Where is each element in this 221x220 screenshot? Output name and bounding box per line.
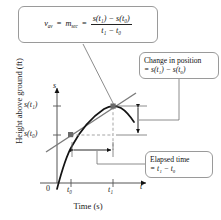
point-t1-marker (111, 104, 116, 109)
formula-numerator: s(t₁) − s(t₀) (91, 14, 132, 25)
elapsed-time-line-2: = t₁ − t₀ (150, 164, 208, 173)
formula-equals-1: = (57, 19, 62, 28)
average-velocity-formula-callout: vav = msec = s(t₁) − s(t₀) t₁ − t₀ (18, 6, 158, 43)
secant-line (46, 93, 136, 152)
position-curve (57, 106, 134, 189)
x-tick-label-t0: t₀ (67, 185, 72, 194)
elapsed-time-callout: Elapsed time = t₁ − t₀ (145, 151, 213, 178)
formula-equals-2: = (82, 19, 87, 28)
y-axis-symbol: s (53, 81, 56, 90)
formula-m-subscript: sec (71, 23, 77, 29)
change-in-position-leader-line (139, 79, 179, 120)
formula-fraction: s(t₁) − s(t₀) t₁ − t₀ (91, 14, 132, 34)
formula-v-subscript: av (48, 23, 53, 29)
elapsed-time-leader-line (97, 151, 145, 164)
formula-denominator: t₁ − t₀ (91, 25, 132, 35)
change-in-position-callout: Change in position = s(t₁) − s(t₀) (139, 52, 219, 79)
point-t0-marker (68, 132, 73, 137)
change-in-position-line-2: = s(t₁) − s(t₀) (144, 65, 214, 74)
x-axis-label: Time (s) (38, 201, 138, 211)
change-in-position-line-1: Change in position (144, 56, 214, 65)
origin-label: 0 (46, 184, 50, 193)
y-tick-label-s-t0: s(t₀) (24, 129, 37, 138)
x-axis-symbol: t (140, 182, 142, 191)
y-tick-label-s-t1: s(t₁) (24, 100, 37, 109)
velocity-secant-diagram: vav = msec = s(t₁) − s(t₀) t₁ − t₀ Chang… (0, 0, 221, 220)
y-axis-label: Height above ground (ft) (14, 36, 24, 166)
x-tick-label-t1: t₁ (108, 185, 113, 194)
elapsed-time-line-1: Elapsed time (150, 155, 208, 164)
formula-leader-line (83, 44, 114, 105)
